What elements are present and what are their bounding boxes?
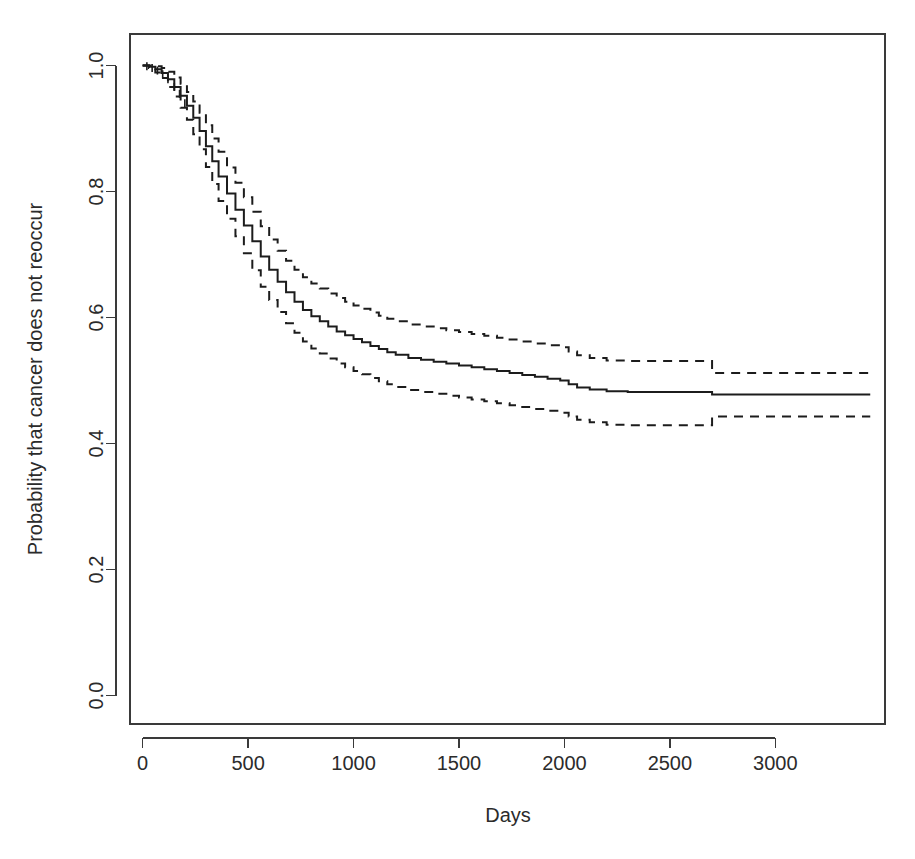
kaplan-meier-figure: 0.00.20.40.60.81.0 050010001500200025003… — [0, 0, 915, 859]
x-tick-label: 3000 — [753, 752, 798, 774]
y-tick-label: 0.8 — [85, 178, 107, 206]
y-tick-label: 1.0 — [85, 52, 107, 80]
y-tick-label: 0.0 — [85, 682, 107, 710]
y-tick-label: 0.6 — [85, 304, 107, 332]
x-tick-label: 0 — [137, 752, 148, 774]
x-tick-label: 1500 — [437, 752, 482, 774]
x-tick-label: 500 — [231, 752, 264, 774]
y-axis-title: Probability that cancer does not reoccur — [24, 202, 46, 555]
y-tick-label: 0.2 — [85, 556, 107, 584]
x-tick-label: 2000 — [542, 752, 587, 774]
x-axis-title: Days — [485, 804, 531, 826]
x-tick-label: 2500 — [648, 752, 693, 774]
figure-background — [0, 0, 915, 859]
y-tick-label: 0.4 — [85, 430, 107, 458]
km-survival-chart: 0.00.20.40.60.81.0 050010001500200025003… — [0, 0, 915, 859]
x-tick-label: 1000 — [331, 752, 376, 774]
